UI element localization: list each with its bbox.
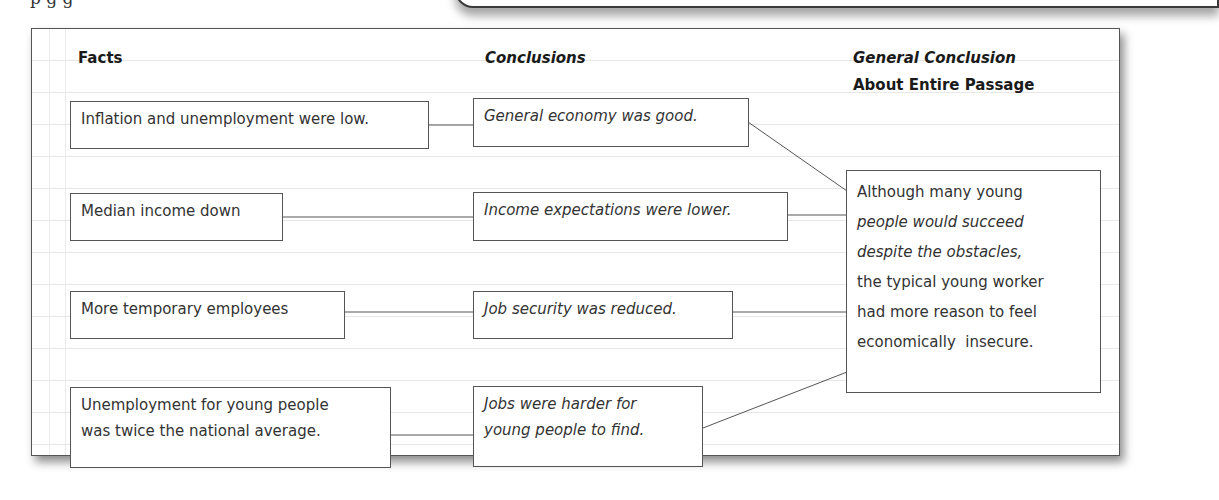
conclusion-text: Job security was reduced. — [484, 300, 677, 318]
conclusion-box: Jobs were harder for young people to fin… — [473, 386, 703, 467]
conclusion-text-line2: young people to find. — [484, 417, 692, 443]
general-conclusion-box: Although many young people would succeed… — [846, 170, 1101, 393]
conclusion-text-line1: Jobs were harder for — [484, 391, 692, 417]
fact-text-line1: Unemployment for young people — [81, 392, 380, 418]
general-conclusion-line: people would succeed — [857, 207, 1090, 237]
header-general-conclusion-line2: About Entire Passage — [853, 72, 1034, 98]
fact-text: Inflation and unemployment were low. — [81, 110, 369, 128]
conclusion-box: Income expectations were lower. — [473, 192, 788, 241]
general-conclusion-line: the typical young worker — [857, 267, 1090, 297]
header-facts: Facts — [78, 45, 122, 71]
conclusion-text: General economy was good. — [484, 107, 698, 125]
general-conclusion-line: had more reason to feel — [857, 297, 1090, 327]
fact-text: Median income down — [81, 202, 241, 220]
fact-box: Median income down — [70, 193, 283, 241]
margin-rule — [65, 29, 66, 455]
general-conclusion-line: economically insecure. — [857, 327, 1090, 357]
header-conclusions: Conclusions — [485, 45, 586, 71]
cut-off-text-line: p g g — [30, 0, 73, 8]
general-conclusion-line: despite the obstacles, — [857, 237, 1090, 267]
fact-text-line2: was twice the national average. — [81, 418, 380, 444]
callout-box-edge — [455, 0, 1219, 8]
conclusion-box: General economy was good. — [473, 98, 749, 147]
fact-text: More temporary employees — [81, 300, 288, 318]
header-general-conclusion-line1: General Conclusion — [853, 45, 1016, 71]
conclusion-box: Job security was reduced. — [473, 291, 733, 339]
fact-box: More temporary employees — [70, 291, 345, 339]
general-conclusion-line: Although many young — [857, 177, 1090, 207]
margin-rule — [49, 29, 50, 455]
fact-box: Inflation and unemployment were low. — [70, 101, 429, 149]
conclusion-text: Income expectations were lower. — [484, 201, 732, 219]
fact-box: Unemployment for young people was twice … — [70, 387, 391, 468]
